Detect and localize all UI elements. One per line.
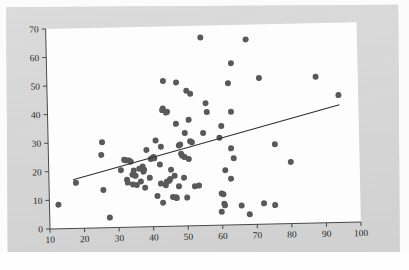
data-point <box>272 141 278 147</box>
regression-line-group <box>72 105 341 180</box>
data-point <box>168 167 174 173</box>
data-point <box>228 145 234 151</box>
data-point <box>173 121 179 127</box>
data-point <box>152 137 158 143</box>
y-tick-label: 0 <box>38 224 43 234</box>
data-point <box>228 109 234 115</box>
data-point <box>98 152 104 158</box>
data-point <box>158 144 164 150</box>
data-point <box>225 80 231 86</box>
x-tick-label: 20 <box>80 234 90 244</box>
data-point <box>313 74 319 80</box>
y-tick-label: 70 <box>29 24 39 34</box>
data-point <box>261 200 267 206</box>
data-point <box>160 78 166 84</box>
y-tick-label: 40 <box>31 110 41 120</box>
data-point <box>239 202 245 208</box>
y-tick-label: 20 <box>32 167 42 177</box>
data-point <box>288 159 294 165</box>
y-tick-label: 60 <box>30 53 40 63</box>
data-point <box>256 75 262 81</box>
data-point <box>228 60 234 66</box>
data-point <box>247 211 253 217</box>
data-point <box>99 139 105 145</box>
data-point <box>182 130 188 136</box>
data-point <box>219 209 225 215</box>
chart-figure: 010203040506070102030405060708090100 <box>9 3 395 254</box>
data-point <box>222 167 228 173</box>
data-point <box>142 185 148 191</box>
regression-line <box>72 105 341 180</box>
page-bottom-margin <box>0 252 409 270</box>
y-tick-label: 30 <box>32 139 42 149</box>
data-point <box>218 123 224 129</box>
data-point <box>204 109 210 115</box>
data-point <box>157 161 163 167</box>
x-tick-label: 60 <box>218 231 228 241</box>
y-tick-label: 10 <box>33 196 43 206</box>
data-point <box>202 100 208 106</box>
x-tick-label: 90 <box>322 229 332 239</box>
data-point <box>228 176 234 182</box>
data-points-group <box>52 32 344 222</box>
data-point <box>107 215 113 221</box>
data-point <box>173 79 179 85</box>
data-point <box>143 147 149 153</box>
data-point <box>55 202 61 208</box>
x-tick-label: 40 <box>149 233 159 243</box>
data-point <box>335 92 341 98</box>
x-tick-label: 70 <box>253 230 263 240</box>
x-tick-label: 80 <box>287 229 297 239</box>
scatter-plot-screenshot: 010203040506070102030405060708090100 <box>0 0 409 270</box>
data-point <box>181 175 187 181</box>
chart-svg: 010203040506070102030405060708090100 <box>9 3 395 254</box>
tick-labels-group: 010203040506070102030405060708090100 <box>29 17 369 245</box>
data-point <box>186 117 192 123</box>
data-point <box>118 167 124 173</box>
x-tick-label: 10 <box>45 235 55 245</box>
axis-spines <box>46 22 361 229</box>
x-tick-label: 50 <box>184 232 194 242</box>
x-tick-label: 30 <box>114 233 124 243</box>
data-point <box>197 34 203 40</box>
data-point <box>160 200 166 206</box>
data-point <box>231 155 237 161</box>
data-point <box>184 195 190 201</box>
data-point <box>147 175 153 181</box>
data-point <box>154 193 160 199</box>
y-tick-label: 50 <box>30 82 40 92</box>
data-point <box>243 36 249 42</box>
data-point <box>73 180 79 186</box>
data-point <box>176 183 182 189</box>
data-point <box>272 202 278 208</box>
axes-group <box>42 22 361 233</box>
data-point <box>200 130 206 136</box>
x-tick-label: 100 <box>354 228 369 238</box>
data-point <box>100 187 106 193</box>
